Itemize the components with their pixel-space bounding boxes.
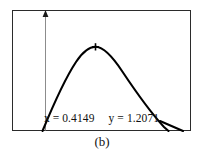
figure-caption: (b) (0, 133, 204, 152)
figure-panel: x = 0.4149 y = 1.2071 (b) (0, 0, 204, 154)
value-annotations: x = 0.4149 y = 1.2071 (12, 110, 191, 128)
y-value-label: y = 1.2071 (109, 113, 160, 125)
x-value-label: x = 0.4149 (44, 113, 95, 125)
